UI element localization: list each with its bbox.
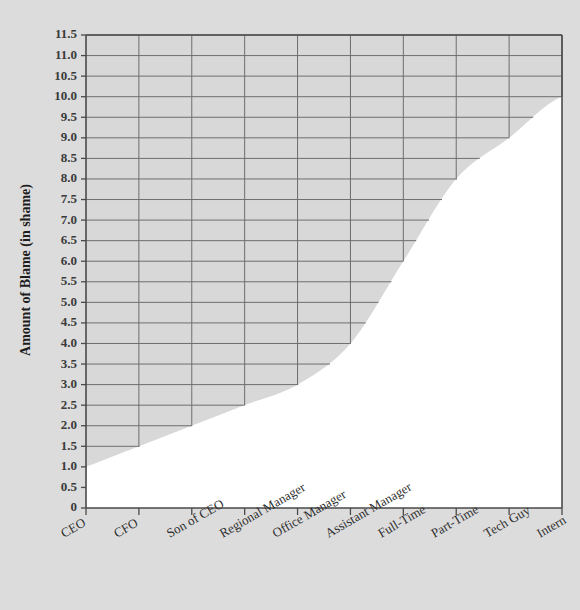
y-tick-label: 8.5 — [61, 150, 78, 165]
y-tick-label: 11.5 — [55, 26, 78, 41]
y-tick-label: 2.5 — [61, 397, 78, 412]
chart-container: 00.51.01.52.02.53.03.54.04.55.05.56.06.5… — [0, 0, 580, 610]
y-tick-label: 4.5 — [61, 314, 78, 329]
y-tick-label: 0.5 — [61, 479, 78, 494]
y-tick-label: 5.5 — [61, 273, 78, 288]
y-tick-label: 9.0 — [61, 129, 77, 144]
y-tick-label: 3.5 — [61, 356, 78, 371]
y-tick-label: 7.5 — [61, 191, 78, 206]
y-tick-label: 3.0 — [61, 376, 77, 391]
y-tick-label: 10.5 — [54, 68, 77, 83]
y-tick-label: 7.0 — [61, 212, 77, 227]
y-tick-label: 9.5 — [61, 109, 78, 124]
y-tick-label: 5.0 — [61, 294, 77, 309]
y-tick-label: 4.0 — [61, 335, 77, 350]
y-tick-label: 1.5 — [61, 438, 78, 453]
y-tick-label: 11.0 — [55, 47, 77, 62]
y-tick-label: 6.0 — [61, 253, 77, 268]
y-tick-label: 8.0 — [61, 170, 77, 185]
blame-area-chart: 00.51.01.52.02.53.03.54.04.55.05.56.06.5… — [0, 0, 580, 610]
y-axis-title: Amount of Blame (in shame) — [18, 184, 34, 356]
y-tick-label: 6.5 — [61, 232, 78, 247]
y-tick-label: 2.0 — [61, 417, 77, 432]
y-tick-label: 10.0 — [54, 88, 77, 103]
y-tick-label: 1.0 — [61, 458, 77, 473]
y-tick-label: 0 — [71, 499, 78, 514]
